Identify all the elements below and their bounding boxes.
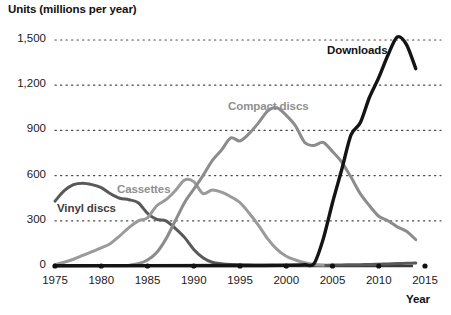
y-tick-label: 300 xyxy=(4,213,46,225)
y-tick-label: 1,200 xyxy=(4,77,46,89)
x-tick-label: 1990 xyxy=(172,274,216,286)
x-tick-dot xyxy=(237,263,242,268)
x-tick-dot xyxy=(376,263,381,268)
x-tick-dot xyxy=(99,263,104,268)
x-tick-label: 2005 xyxy=(311,274,355,286)
series-line-cassettes xyxy=(55,179,323,265)
series-label-downloads: Downloads xyxy=(327,44,387,56)
x-tick-dot xyxy=(145,263,150,268)
y-tick-label: 0 xyxy=(4,258,46,270)
x-tick-label: 2015 xyxy=(403,274,447,286)
y-tick-label: 900 xyxy=(4,122,46,134)
x-tick-label: 1985 xyxy=(126,274,170,286)
series-label-cassettes: Cassettes xyxy=(117,183,170,195)
x-tick-label: 2000 xyxy=(264,274,308,286)
series-line-compact-discs xyxy=(129,108,416,266)
music-formats-line-chart: Units (millions per year) Year 030060090… xyxy=(0,0,451,315)
x-tick-dot xyxy=(284,263,289,268)
x-tick-dot xyxy=(330,263,335,268)
x-tick-label: 2010 xyxy=(357,274,401,286)
x-tick-label: 1980 xyxy=(79,274,123,286)
series-line-downloads xyxy=(55,37,416,266)
y-tick-label: 600 xyxy=(4,168,46,180)
x-tick-label: 1995 xyxy=(218,274,262,286)
x-tick-label: 1975 xyxy=(33,274,77,286)
x-tick-dot xyxy=(191,263,196,268)
x-tick-dot xyxy=(52,263,57,268)
x-tick-dot xyxy=(422,263,427,268)
y-tick-label: 1,500 xyxy=(4,32,46,44)
series-lines xyxy=(55,37,416,266)
series-label-compact-discs: Compact discs xyxy=(228,100,309,112)
series-label-vinyl-discs: Vinyl discs xyxy=(57,202,116,214)
